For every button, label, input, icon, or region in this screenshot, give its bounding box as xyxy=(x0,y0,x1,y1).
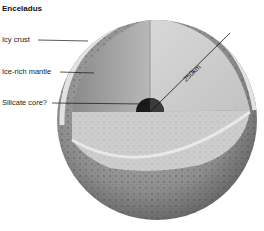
label-icy-crust: Icy crust xyxy=(2,35,30,44)
enceladus-cutaway-diagram: 250km xyxy=(0,0,264,231)
label-silicate-core: Silicate core? xyxy=(2,98,47,107)
label-ice-rich-mantle: Ice-rich mantle xyxy=(2,67,51,76)
icy-crust-leader xyxy=(38,40,88,41)
